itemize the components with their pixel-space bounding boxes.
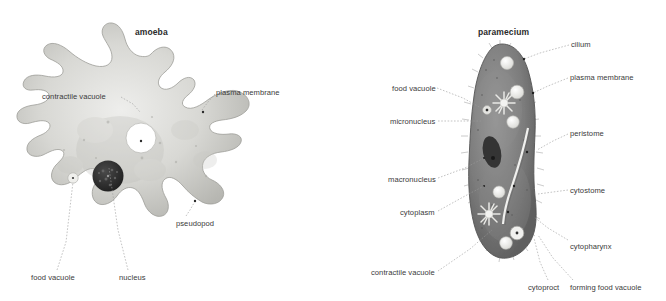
label-amoeba-nucleus: nucleus	[119, 273, 146, 282]
paramecium-figure: paramecium	[333, 0, 666, 301]
amoeba-figure: amoeba	[0, 0, 333, 301]
label-amoeba-pseudopod: pseudopod	[176, 219, 214, 228]
label-paramecium-cytoproct: cytoproct	[528, 283, 559, 292]
paramecium-title: paramecium	[478, 27, 529, 37]
label-paramecium-cytostome: cytostome	[570, 186, 605, 195]
label-paramecium-forming-food-vacuole: forming food vacuole	[570, 283, 642, 292]
amoeba-title: amoeba	[135, 27, 168, 37]
diagram-canvas: amoeba paramecium contractile vacuolepla…	[0, 0, 666, 301]
label-amoeba-contractile-vacuole: contractile vacuole	[42, 92, 106, 101]
label-paramecium-cytopharynx: cytopharynx	[570, 242, 612, 251]
label-paramecium-contractile-vacuole: contractile vacuole	[371, 268, 435, 277]
label-paramecium-cytoplasm: cytoplasm	[400, 208, 435, 217]
label-paramecium-macronucleus: macronucleus	[388, 175, 436, 184]
label-paramecium-micronucleus: micronucleus	[390, 117, 435, 126]
label-paramecium-cilium: cilium	[571, 40, 591, 49]
label-amoeba-food-vacuole: food vacuole	[31, 273, 75, 282]
label-paramecium-peristome: peristome	[570, 129, 604, 138]
label-paramecium-plasma-membrane: plasma membrane	[570, 73, 634, 82]
label-paramecium-food-vacuole: food vacuole	[392, 84, 436, 93]
label-amoeba-plasma-membrane: plasma membrane	[216, 88, 280, 97]
